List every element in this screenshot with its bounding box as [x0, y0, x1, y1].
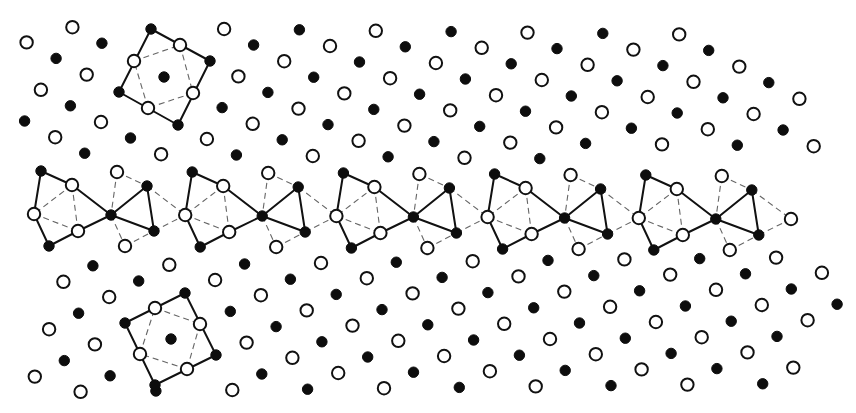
boundary-filled-atom	[497, 244, 507, 254]
lattice-open-atom	[392, 335, 404, 347]
lattice-filled-atom	[257, 369, 267, 379]
lattice-filled-atom	[772, 331, 782, 341]
lattice-filled-atom	[535, 153, 545, 163]
boundary-open-atom	[119, 240, 131, 252]
boundary-filled-atom	[149, 226, 159, 236]
lattice-open-atom	[596, 106, 608, 118]
lattice-filled-atom	[740, 269, 750, 279]
lattice-open-atom	[66, 21, 78, 33]
lattice-open-atom	[590, 348, 602, 360]
lattice-open-atom	[756, 299, 768, 311]
lattice-filled-atom	[323, 119, 333, 129]
lattice-filled-atom	[574, 318, 584, 328]
lattice-filled-atom	[317, 337, 327, 347]
lattice-filled-atom	[460, 74, 470, 84]
boundary-filled-atom	[36, 166, 46, 176]
square-corner-atom	[120, 318, 130, 328]
lattice-filled-atom	[786, 284, 796, 294]
lattice-open-atom	[604, 301, 616, 313]
lattice-open-atom	[218, 23, 230, 35]
lattice-filled-atom	[580, 138, 590, 148]
lattice-open-atom	[458, 152, 470, 164]
lattice-filled-atom	[726, 316, 736, 326]
lattice-open-atom	[247, 118, 259, 130]
lattice-open-atom	[35, 84, 47, 96]
boundary-open-atom	[262, 167, 274, 179]
boundary-open-atom	[368, 181, 380, 193]
lattice-filled-atom	[612, 76, 622, 86]
boundary-filled-atom	[649, 245, 659, 255]
lattice-open-atom	[324, 40, 336, 52]
lattice-filled-atom	[695, 253, 705, 263]
solid-bond	[111, 186, 147, 215]
lattice-filled-atom	[658, 60, 668, 70]
lattice-filled-atom	[391, 257, 401, 267]
square-edge-atom	[142, 102, 154, 114]
lattice-filled-atom	[88, 261, 98, 271]
boundary-filled-atom	[444, 183, 454, 193]
lattice-open-atom	[656, 138, 668, 150]
lattice-open-atom	[664, 268, 676, 280]
boundary-open-atom	[111, 166, 123, 178]
lattice-filled-atom	[285, 274, 295, 284]
lattice-open-atom	[710, 284, 722, 296]
lattice-open-atom	[103, 291, 115, 303]
lattice-open-atom	[770, 251, 782, 263]
square-corner-atom	[205, 56, 215, 66]
square-edge-atom	[134, 348, 146, 360]
lattice-open-atom	[618, 253, 630, 265]
lattice-open-atom	[504, 136, 516, 148]
lattice-filled-atom	[483, 287, 493, 297]
lattice-filled-atom	[277, 135, 287, 145]
boundary-open-atom	[179, 209, 191, 221]
lattice-open-atom	[467, 255, 479, 267]
lattice-open-atom	[57, 276, 69, 288]
boundary-filled-atom	[293, 182, 303, 192]
lattice-filled-atom	[51, 53, 61, 63]
lattice-filled-atom	[514, 350, 524, 360]
lattice-open-atom	[490, 89, 502, 101]
lattice-filled-atom	[354, 57, 364, 67]
lattice-filled-atom	[239, 259, 249, 269]
lattice-open-atom	[816, 267, 828, 279]
lattice-filled-atom	[666, 348, 676, 358]
boundary-open-atom	[223, 226, 235, 238]
solid-bond	[413, 188, 449, 217]
lattice-open-atom	[286, 352, 298, 364]
boundary-filled-atom	[595, 184, 605, 194]
square-edge-atom	[174, 39, 186, 51]
lattice-filled-atom	[560, 365, 570, 375]
dashed-bond	[180, 45, 193, 93]
boundary-open-atom	[66, 179, 78, 191]
solid-bond	[449, 188, 456, 233]
boundary-open-atom	[28, 208, 40, 220]
boundary-filled-atom	[754, 230, 764, 240]
lattice-open-atom	[95, 116, 107, 128]
lattice-filled-atom	[626, 123, 636, 133]
boundary-open-atom	[633, 212, 645, 224]
lattice-open-atom	[801, 314, 813, 326]
lattice-filled-atom	[377, 304, 387, 314]
lattice-open-atom	[484, 365, 496, 377]
lattice-filled-atom	[97, 38, 107, 48]
lattice-filled-atom	[764, 77, 774, 87]
lattice-open-atom	[201, 133, 213, 145]
lattice-open-atom	[530, 380, 542, 392]
boundary-open-atom	[72, 225, 84, 237]
lattice-open-atom	[650, 316, 662, 328]
lattice-filled-atom	[520, 106, 530, 116]
boundary-filled-atom	[300, 227, 310, 237]
lattice-open-atom	[346, 319, 358, 331]
lattice-filled-atom	[294, 25, 304, 35]
boundary-filled-atom	[489, 169, 499, 179]
lattice-filled-atom	[105, 371, 115, 381]
lattice-open-atom	[81, 68, 93, 80]
lattice-filled-atom	[217, 102, 227, 112]
dashed-bonds	[34, 45, 791, 369]
lattice-filled-atom	[543, 255, 553, 265]
lattice-open-atom	[430, 57, 442, 69]
lattice-diagram	[0, 0, 856, 413]
lattice-filled-atom	[680, 301, 690, 311]
lattice-filled-atom	[73, 308, 83, 318]
lattice-filled-atom	[606, 380, 616, 390]
